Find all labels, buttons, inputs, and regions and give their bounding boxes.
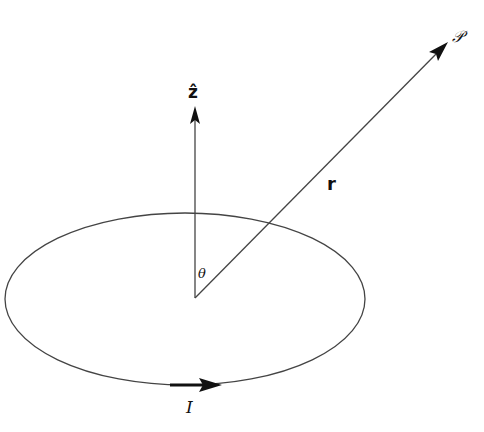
current-loop bbox=[5, 213, 365, 385]
current-label: I bbox=[185, 397, 193, 417]
radius-vector-line bbox=[195, 50, 440, 298]
field-point-label: 𝒫 bbox=[452, 27, 468, 46]
theta-label: θ bbox=[198, 266, 206, 281]
radius-label: r bbox=[327, 173, 336, 194]
current-loop-diagram: ẑ r 𝒫 θ I bbox=[0, 0, 484, 432]
z-hat-label: ẑ bbox=[188, 82, 198, 102]
